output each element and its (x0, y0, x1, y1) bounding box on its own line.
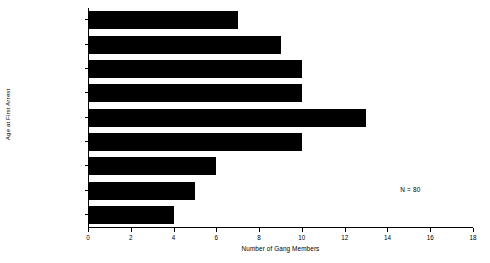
bar (88, 157, 216, 175)
x-axis-tick (216, 228, 217, 232)
x-axis-tick-label: 2 (129, 234, 133, 241)
x-axis-tick-label: 0 (86, 234, 90, 241)
plot-area: Eleven and UnderTwelveThirteenFourteenFi… (88, 8, 473, 227)
bar (88, 84, 302, 102)
x-axis-tick (131, 228, 132, 232)
bar-chart: Age at First Arrest Eleven and UnderTwel… (0, 0, 490, 263)
x-axis-tick (259, 228, 260, 232)
sample-size-annotation: N = 80 (400, 186, 420, 193)
x-axis-tick-label: 12 (341, 234, 348, 241)
x-axis-tick (88, 228, 89, 232)
y-axis-title: Age at First Arrest (0, 0, 16, 228)
x-axis-tick-label: 6 (215, 234, 219, 241)
x-axis-tick-label: 10 (298, 234, 305, 241)
x-axis-title: Number of Gang Members (88, 245, 473, 252)
x-axis-tick-label: 14 (384, 234, 391, 241)
x-axis-tick (473, 228, 474, 232)
y-axis-title-text: Age at First Arrest (5, 88, 12, 139)
x-axis-tick (174, 228, 175, 232)
bar (88, 182, 195, 200)
bar (88, 206, 174, 224)
x-axis-tick-label: 16 (427, 234, 434, 241)
bar (88, 11, 238, 29)
x-axis-tick (430, 228, 431, 232)
x-axis-tick-label: 4 (172, 234, 176, 241)
bar (88, 109, 366, 127)
bar (88, 60, 302, 78)
x-axis-tick (387, 228, 388, 232)
x-axis-tick (302, 228, 303, 232)
x-axis-line (88, 227, 473, 228)
x-axis-tick (345, 228, 346, 232)
bar (88, 36, 281, 54)
x-axis-tick-label: 8 (257, 234, 261, 241)
x-axis-tick-label: 18 (469, 234, 476, 241)
bar (88, 133, 302, 151)
